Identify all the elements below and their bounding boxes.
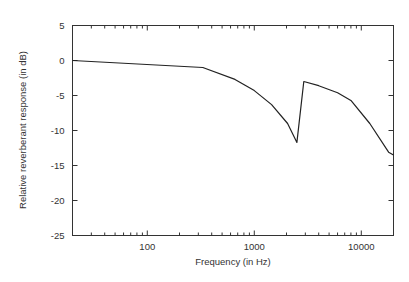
x-axis-label: Frequency (in Hz) [195, 256, 271, 267]
y-tick-label: -5 [56, 90, 64, 101]
x-tick-label: 10000 [348, 241, 374, 252]
x-axis-ticks [73, 26, 394, 236]
y-tick-label: 5 [59, 20, 64, 31]
y-tick-labels: 50-5-10-15-20-25 [51, 20, 65, 241]
y-axis-label: Relative reverberant response (in dB) [17, 51, 28, 209]
y-axis-ticks [73, 26, 394, 236]
x-tick-label: 100 [139, 241, 155, 252]
y-tick-label: 0 [59, 55, 64, 66]
x-tick-label: 1000 [244, 241, 265, 252]
frequency-response-chart: 100100010000 50-5-10-15-20-25 Frequency … [0, 0, 409, 282]
plot-frame [73, 26, 394, 236]
y-tick-label: -10 [51, 125, 65, 136]
y-tick-label: -25 [51, 230, 65, 241]
response-curve [73, 61, 394, 156]
x-tick-labels: 100100010000 [139, 241, 374, 252]
y-tick-label: -20 [51, 195, 65, 206]
y-tick-label: -15 [51, 160, 65, 171]
